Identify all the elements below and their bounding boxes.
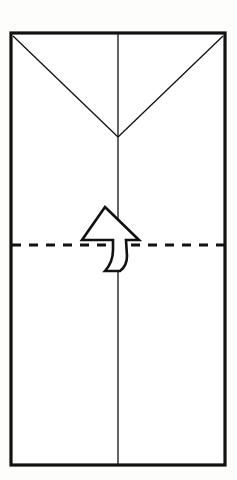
origami-diagram bbox=[0, 0, 237, 480]
diagram-canvas bbox=[0, 0, 237, 480]
